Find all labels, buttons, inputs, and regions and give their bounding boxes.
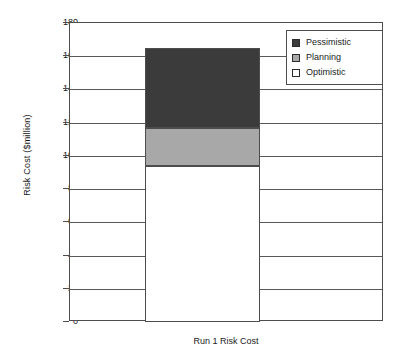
legend-item-pessimistic[interactable]: Pessimistic: [292, 35, 377, 50]
legend-swatch-icon: [292, 69, 300, 77]
x-axis-label: Run 1 Risk Cost: [69, 336, 383, 346]
legend-item-optimistic[interactable]: Optimistic: [292, 65, 377, 80]
bar-segment-planning: [145, 128, 260, 166]
legend-swatch-icon: [292, 39, 300, 47]
legend: Pessimistic Planning Optimistic: [286, 30, 383, 85]
y-axis-tick-mark: [63, 321, 69, 322]
y-axis-title: Risk Cost ($million): [22, 65, 32, 245]
legend-swatch-icon: [292, 54, 300, 62]
legend-item-label: Optimistic: [306, 68, 346, 77]
bar-segment-pessimistic: [145, 48, 260, 128]
stacked-bar-chart: Risk Cost ($million) 1801601401201008060…: [0, 0, 402, 359]
legend-item-label: Planning: [306, 53, 341, 62]
legend-item-planning[interactable]: Planning: [292, 50, 377, 65]
bar-segment-optimistic: [145, 166, 260, 322]
legend-item-label: Pessimistic: [306, 38, 351, 47]
